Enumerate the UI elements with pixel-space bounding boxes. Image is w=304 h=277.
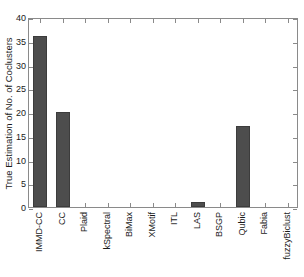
y-tick-label-40: 40 (0, 13, 26, 23)
x-tick-label: Fabia (259, 212, 269, 235)
x-tick-bottom-4 (130, 203, 131, 207)
x-tick-bottom-3 (108, 203, 109, 207)
y-tick-right-30 (293, 67, 297, 68)
x-tick-bottom-2 (85, 203, 86, 207)
x-tick-top-10 (265, 19, 266, 23)
x-tick-top-8 (220, 19, 221, 23)
x-tick-label: CC (57, 212, 67, 225)
x-tick-top-9 (243, 19, 244, 23)
x-tick-top-3 (108, 19, 109, 23)
x-tick-label: BiMax (124, 212, 134, 237)
y-tick-right-5 (293, 185, 297, 186)
x-tick-label: IMMD-CC (34, 212, 44, 252)
x-tick-bottom-6 (175, 203, 176, 207)
y-tick-label-10: 10 (0, 156, 26, 166)
x-tick-bottom-10 (265, 203, 266, 207)
bar (56, 112, 70, 207)
bar (236, 126, 250, 207)
x-axis-tick-labels: IMMD-CCCCPlaidkSpectralBiMaxXMotifITLLAS… (28, 208, 298, 277)
y-tick-label-35: 35 (0, 37, 26, 47)
y-tick-right-10 (293, 162, 297, 163)
x-tick-top-6 (175, 19, 176, 23)
x-tick-bottom-11 (288, 203, 289, 207)
plot-area (28, 18, 298, 208)
bar (33, 36, 47, 207)
x-tick-top-5 (153, 19, 154, 23)
y-tick-left-40 (29, 19, 33, 20)
x-tick-label: fuzzyBiclust (282, 212, 292, 260)
x-tick-top-2 (85, 19, 86, 23)
y-tick-right-35 (293, 43, 297, 44)
x-tick-top-1 (63, 19, 64, 23)
x-tick-top-0 (40, 19, 41, 23)
bar (191, 202, 205, 207)
x-tick-label: Qubic (237, 212, 247, 236)
y-tick-label-0: 0 (0, 203, 26, 213)
y-tick-right-15 (293, 138, 297, 139)
x-tick-label: XMotif (147, 212, 157, 238)
x-tick-label: kSpectral (102, 212, 112, 250)
y-axis-tick-labels: 0510152025303540 (0, 0, 26, 277)
x-tick-label: LAS (192, 212, 202, 229)
x-tick-label: ITL (169, 212, 179, 225)
y-tick-right-20 (293, 114, 297, 115)
bar-chart-figure: True Estimation of No. of Coclusters 051… (0, 0, 304, 277)
y-tick-label-20: 20 (0, 108, 26, 118)
y-tick-right-25 (293, 90, 297, 91)
y-tick-right-40 (293, 19, 297, 20)
x-tick-top-4 (130, 19, 131, 23)
x-tick-label: Plaid (79, 212, 89, 232)
x-tick-label: BSGP (214, 212, 224, 237)
x-tick-bottom-5 (153, 203, 154, 207)
x-tick-bottom-8 (220, 203, 221, 207)
y-tick-label-30: 30 (0, 61, 26, 71)
y-tick-label-25: 25 (0, 84, 26, 94)
x-tick-top-11 (288, 19, 289, 23)
y-tick-label-15: 15 (0, 132, 26, 142)
y-tick-label-5: 5 (0, 179, 26, 189)
x-tick-top-7 (198, 19, 199, 23)
